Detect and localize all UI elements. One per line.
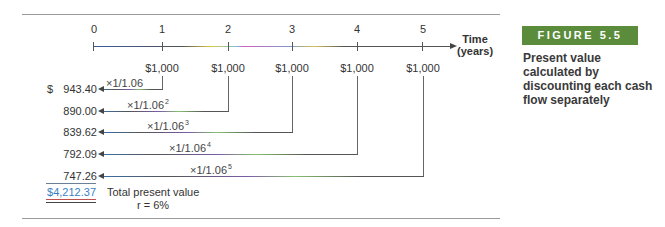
tick-label-3: 3 (289, 23, 295, 35)
tick-label-5: 5 (420, 23, 426, 35)
multiplier-4-exp: 4 (207, 141, 211, 148)
arrowhead-4 (98, 151, 104, 157)
tick-label-0: 0 (91, 23, 97, 35)
drop-line-4 (357, 76, 358, 154)
axis-arrowhead (450, 43, 457, 49)
tick-1 (162, 42, 163, 51)
discount-arrow-5 (103, 176, 424, 177)
multiplier-3: ×1/1.063 (147, 119, 189, 132)
drop-line-3 (292, 76, 293, 132)
figure-badge: FIGURE 5.5 (522, 26, 638, 45)
total-present-value: $4,212.37 (46, 186, 96, 198)
figure-caption: Present value calculated by discounting … (523, 51, 653, 107)
cash-flow-4: $1,000 (340, 62, 374, 74)
tick-4 (357, 42, 358, 51)
multiplier-2-exp: 2 (165, 98, 169, 105)
multiplier-2-base: ×1/1.06 (127, 99, 164, 111)
multiplier-3-base: ×1/1.06 (147, 120, 184, 132)
arrowhead-2 (98, 108, 104, 114)
discount-arrow-3 (103, 132, 293, 133)
multiplier-3-exp: 3 (185, 119, 189, 126)
rate-label: r = 6% (137, 199, 169, 211)
multiplier-1-base: ×1/1.06 (106, 77, 143, 89)
drop-line-5 (423, 76, 424, 176)
tick-label-1: 1 (159, 23, 165, 35)
axis-title-line1: Time (457, 33, 493, 45)
tick-label-4: 4 (354, 23, 360, 35)
drop-line-1 (162, 76, 163, 89)
present-value-5: 747.26 (57, 170, 97, 182)
tick-2 (228, 42, 229, 51)
multiplier-4: ×1/1.064 (169, 141, 211, 154)
cash-flow-2: $1,000 (211, 62, 245, 74)
present-value-4: 792.09 (57, 148, 97, 160)
multiplier-5: ×1/1.065 (190, 163, 232, 176)
multiplier-5-base: ×1/1.06 (190, 164, 227, 176)
sum-rule (46, 183, 96, 184)
tick-5 (422, 42, 423, 51)
multiplier-1: ×1/1.06 (106, 76, 144, 89)
top-rule (22, 14, 500, 15)
arrowhead-5 (98, 173, 104, 179)
currency-symbol: $ (47, 83, 53, 95)
arrowhead-1 (98, 86, 104, 92)
bottom-rule (22, 218, 500, 219)
double-underline-top (46, 199, 96, 200)
cash-flow-1: $1,000 (145, 62, 179, 74)
tick-label-2: 2 (225, 23, 231, 35)
cash-flow-5: $1,000 (406, 62, 440, 74)
axis-title: Time (years) (457, 33, 493, 57)
multiplier-5-exp: 5 (228, 163, 232, 170)
multiplier-4-base: ×1/1.06 (169, 142, 206, 154)
present-value-1: 943.40 (57, 83, 97, 95)
arrowhead-3 (98, 129, 104, 135)
axis-title-line2: (years) (457, 45, 493, 57)
present-value-3: 839.62 (57, 126, 97, 138)
drop-line-2 (228, 76, 229, 111)
discount-arrow-1 (103, 89, 163, 90)
present-value-2: 890.00 (57, 105, 97, 117)
tick-0 (93, 42, 94, 51)
multiplier-2: ×1/1.062 (127, 98, 169, 111)
double-underline-bottom (46, 202, 96, 203)
tick-3 (292, 42, 293, 51)
timeline-axis (93, 46, 451, 47)
total-label: Total present value (107, 186, 199, 198)
cash-flow-3: $1,000 (275, 62, 309, 74)
discount-arrow-2 (103, 111, 229, 112)
discount-arrow-4 (103, 154, 358, 155)
